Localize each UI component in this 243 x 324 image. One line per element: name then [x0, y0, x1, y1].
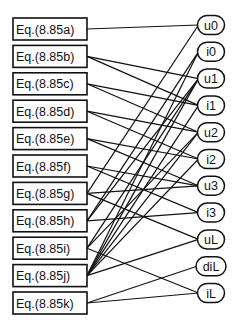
edge-d-i2	[87, 111, 199, 159]
equation-label: Eq.(8.85g)	[16, 187, 74, 201]
edge-j-i1	[87, 105, 199, 275]
variable-node-u1: u1	[198, 69, 225, 88]
equation-node-i: Eq.(8.85i)	[13, 237, 87, 259]
equation-node-h: Eq.(8.85h)	[13, 210, 87, 232]
edge-c-i1	[87, 84, 199, 106]
variable-label: iL	[206, 287, 216, 301]
edge-b-u1	[87, 56, 199, 78]
equation-node-c: Eq.(8.85c)	[13, 73, 87, 95]
variable-node-diL: diL	[196, 257, 226, 276]
edge-j-u2	[87, 132, 199, 275]
edges-layer	[87, 25, 199, 303]
variable-node-u0: u0	[198, 16, 225, 35]
edge-e-u3	[87, 139, 199, 186]
equation-label: Eq.(8.85k)	[16, 297, 74, 311]
equation-node-k: Eq.(8.85k)	[13, 292, 87, 314]
equation-node-d: Eq.(8.85d)	[13, 100, 87, 122]
edge-h-i0	[87, 52, 199, 221]
equation-node-f: Eq.(8.85f)	[13, 155, 87, 177]
edge-d-u2	[87, 111, 199, 132]
equation-label: Eq.(8.85f)	[16, 160, 71, 174]
equation-node-b: Eq.(8.85b)	[13, 45, 87, 67]
equation-node-e: Eq.(8.85e)	[13, 128, 87, 150]
variable-node-i3: i3	[198, 203, 225, 222]
equation-label: Eq.(8.85b)	[16, 50, 74, 64]
edge-b-i1	[87, 56, 199, 105]
equation-label: Eq.(8.85j)	[16, 269, 70, 283]
equation-label: Eq.(8.85i)	[16, 242, 70, 256]
variable-nodes: u0i0u1i1u2i2u3i3uLdiLiL	[196, 16, 226, 303]
variable-label: i1	[206, 99, 216, 113]
variable-label: i0	[206, 45, 216, 59]
variable-node-iL: iL	[198, 284, 225, 303]
equation-label: Eq.(8.85c)	[16, 77, 74, 91]
variable-label: uL	[204, 233, 218, 247]
variable-label: u0	[204, 19, 218, 33]
variable-label: i3	[206, 206, 216, 220]
equation-label: Eq.(8.85d)	[16, 105, 74, 119]
variable-node-u2: u2	[198, 123, 225, 142]
equation-variable-diagram: Eq.(8.85a)Eq.(8.85b)Eq.(8.85c)Eq.(8.85d)…	[0, 0, 243, 324]
equation-nodes: Eq.(8.85a)Eq.(8.85b)Eq.(8.85c)Eq.(8.85d)…	[13, 18, 87, 314]
variable-node-uL: uL	[198, 230, 225, 249]
variable-node-u3: u3	[198, 176, 225, 195]
equation-label: Eq.(8.85e)	[16, 132, 74, 146]
variable-node-i0: i0	[198, 42, 225, 61]
equation-node-j: Eq.(8.85j)	[13, 265, 87, 287]
variable-node-i2: i2	[198, 150, 225, 169]
variable-label: u3	[204, 179, 218, 193]
edge-a-u0	[87, 25, 199, 29]
equation-node-a: Eq.(8.85a)	[13, 18, 87, 40]
edge-j-i0	[87, 52, 199, 276]
equation-label: Eq.(8.85h)	[16, 214, 74, 228]
variable-label: u2	[204, 126, 218, 140]
equation-node-g: Eq.(8.85g)	[13, 182, 87, 204]
variable-node-i1: i1	[198, 96, 225, 115]
variable-label: u1	[204, 72, 218, 86]
variable-label: i2	[206, 153, 216, 167]
variable-label: diL	[203, 260, 220, 274]
equation-label: Eq.(8.85a)	[16, 23, 74, 37]
